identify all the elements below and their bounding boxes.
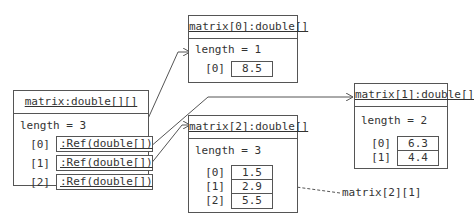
matrix2-index-0: [0] [203,166,225,179]
matrix-ref-2: :Ref(double[]) [56,174,153,190]
matrix-index-2: [2] [24,176,50,189]
matrix0-title: matrix[0]:double[] [189,20,308,33]
matrix1-value-1: 4.4 [397,150,439,166]
matrix2-object: matrix[2]:double[] length = 3 [0] 1.5 [1… [188,115,298,213]
matrix-index-0: [0] [24,138,50,151]
matrix-length: length = 3 [20,119,86,132]
matrix-index-1: [1] [24,157,50,170]
matrix-ref-1: :Ref(double[]) [56,155,153,171]
matrix0-object: matrix[0]:double[] length = 1 [0] 8.5 [188,15,298,83]
matrix0-length: length = 1 [195,43,261,56]
matrix1-index-1: [1] [369,151,391,164]
matrix0-value-0: 8.5 [231,61,273,77]
matrix0-index-0: [0] [203,62,225,75]
matrix1-title: matrix[1]:double[] [355,88,474,101]
matrix2-title: matrix[2]:double[] [189,120,308,133]
matrix-object: matrix:double[][] length = 3 [0] :Ref(do… [13,90,149,186]
matrix1-length: length = 2 [361,114,427,127]
matrix1-object: matrix[1]:double[] length = 2 [0] 6.3 [1… [354,83,448,169]
annotation-label: matrix[2][1] [342,186,421,199]
matrix-ref-0: :Ref(double[]) [56,136,153,152]
matrix2-length: length = 3 [195,144,261,157]
matrix2-index-1: [1] [203,180,225,193]
matrix2-value-2: 5.5 [231,193,273,209]
matrix2-index-2: [2] [203,194,225,207]
matrix-title: matrix:double[][] [25,95,138,108]
matrix1-index-0: [0] [369,137,391,150]
